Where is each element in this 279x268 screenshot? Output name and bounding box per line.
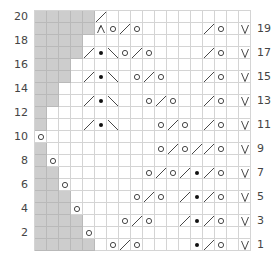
chart-cell [203, 119, 215, 131]
chart-cell [95, 71, 107, 83]
chart-cell [131, 119, 143, 131]
chart-cell [227, 191, 239, 203]
chart-cell [179, 71, 191, 83]
chart-cell [107, 239, 119, 251]
chart-cell [143, 23, 155, 35]
chart-cell [227, 143, 239, 155]
chart-cell [155, 83, 167, 95]
chart-cell [167, 23, 179, 35]
chart-cell [95, 227, 107, 239]
no-stitch-cell [47, 215, 59, 227]
chart-cell [203, 35, 215, 47]
chart-cell [167, 155, 179, 167]
chart-cell [203, 47, 215, 59]
no-stitch-cell [59, 71, 71, 83]
no-stitch-cell [35, 95, 47, 107]
chart-cell [83, 131, 95, 143]
chart-cell [47, 107, 59, 119]
chart-cell [143, 155, 155, 167]
chart-cell [131, 35, 143, 47]
chart-cell [107, 23, 119, 35]
chart-cell [83, 227, 95, 239]
chart-cell [155, 143, 167, 155]
chart-cell [167, 11, 179, 23]
chart-cell [71, 191, 83, 203]
chart-cell [191, 215, 203, 227]
chart-cell [191, 71, 203, 83]
chart-cell [155, 35, 167, 47]
chart-cell [71, 143, 83, 155]
no-stitch-cell [47, 35, 59, 47]
chart-cell [179, 47, 191, 59]
no-stitch-cell [35, 215, 47, 227]
chart-cell [83, 191, 95, 203]
chart-cell [95, 59, 107, 71]
no-stitch-cell [71, 227, 83, 239]
chart-cell [107, 179, 119, 191]
chart-cell [95, 215, 107, 227]
chart-cell [71, 167, 83, 179]
chart-cell [83, 71, 95, 83]
chart-cell [95, 143, 107, 155]
chart-cell [203, 95, 215, 107]
no-stitch-cell [35, 107, 47, 119]
chart-cell [239, 47, 251, 59]
chart-cell [107, 95, 119, 107]
no-stitch-cell [35, 11, 47, 23]
no-stitch-cell [35, 59, 47, 71]
chart-cell [203, 239, 215, 251]
no-stitch-cell [35, 83, 47, 95]
no-stitch-cell [35, 227, 47, 239]
chart-cell [215, 227, 227, 239]
chart-cell [143, 131, 155, 143]
chart-cell [59, 155, 71, 167]
chart-cell [71, 83, 83, 95]
chart-cell [107, 71, 119, 83]
no-stitch-cell [35, 239, 47, 251]
chart-cell [167, 35, 179, 47]
chart-cell [191, 167, 203, 179]
chart-cell [179, 179, 191, 191]
chart-cell [119, 71, 131, 83]
chart-cell [155, 179, 167, 191]
chart-cell [215, 23, 227, 35]
chart-cell [179, 119, 191, 131]
chart-cell [143, 47, 155, 59]
chart-cell [239, 167, 251, 179]
no-stitch-cell [35, 155, 47, 167]
chart-cell [227, 131, 239, 143]
no-stitch-cell [35, 167, 47, 179]
no-stitch-cell [47, 179, 59, 191]
row-label-left: 12 [8, 107, 28, 119]
chart-cell [83, 179, 95, 191]
chart-cell [227, 215, 239, 227]
chart-cell [167, 203, 179, 215]
chart-cell [191, 239, 203, 251]
chart-cell [143, 35, 155, 47]
chart-cell [239, 191, 251, 203]
no-stitch-cell [71, 11, 83, 23]
no-stitch-cell [47, 203, 59, 215]
chart-cell [155, 47, 167, 59]
chart-cell [95, 191, 107, 203]
chart-cell [71, 119, 83, 131]
no-stitch-cell [47, 83, 59, 95]
chart-cell [131, 23, 143, 35]
chart-cell [167, 119, 179, 131]
row-label-right: 1 [257, 239, 264, 251]
chart-cell [239, 107, 251, 119]
chart-cell [215, 107, 227, 119]
chart-cell [215, 191, 227, 203]
chart-cell [155, 155, 167, 167]
chart-cell [227, 107, 239, 119]
chart-cell [95, 11, 107, 23]
chart-cell [191, 191, 203, 203]
chart-cell [95, 239, 107, 251]
chart-cell [203, 227, 215, 239]
chart-cell [107, 143, 119, 155]
chart-cell [131, 107, 143, 119]
chart-cell [95, 155, 107, 167]
chart-cell [227, 71, 239, 83]
chart-cell [215, 167, 227, 179]
chart-cell [119, 215, 131, 227]
